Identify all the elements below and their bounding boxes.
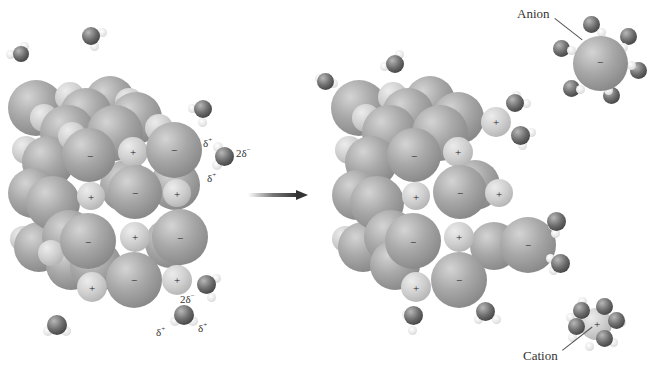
delta-plus-label: δ+ <box>203 136 212 149</box>
two-delta-minus-label: 2δ− <box>180 292 195 305</box>
anion-sign: − <box>85 237 91 248</box>
cation-sign: + <box>132 232 138 243</box>
anion-sign: − <box>171 145 177 156</box>
cation-sign: + <box>456 232 462 243</box>
delta-plus-label: δ+ <box>156 325 165 338</box>
cation-sign: + <box>174 275 180 286</box>
anion-sign: − <box>457 188 463 199</box>
two-delta-minus-label: 2δ− <box>236 146 251 159</box>
cation-label: Cation <box>523 348 558 364</box>
cation-sign: + <box>88 192 94 203</box>
cation-sign: + <box>496 189 502 200</box>
cation-sign: + <box>130 147 136 158</box>
reaction-arrow-icon <box>248 190 308 200</box>
anion-sign: − <box>597 57 603 68</box>
cation-sign: + <box>455 147 461 158</box>
anion-leader-line <box>554 18 582 40</box>
cation-sign: + <box>413 192 419 203</box>
cation-sign: + <box>174 189 180 200</box>
dissolution-diagram: − + − + − + − + − + − + <box>0 0 660 367</box>
cation-sign: + <box>493 117 499 128</box>
anion-sign: − <box>87 151 93 162</box>
anion-sign: − <box>411 151 417 162</box>
cation-sign: + <box>89 283 95 294</box>
anion-sign: − <box>131 275 137 286</box>
anion-sign: − <box>177 233 183 244</box>
cation-sign: + <box>594 319 600 330</box>
anion-sign: − <box>456 275 462 286</box>
anion-sign: − <box>410 237 416 248</box>
delta-plus-label: δ+ <box>207 171 216 184</box>
delta-plus-label: δ+ <box>198 321 207 334</box>
cation-sign: + <box>413 283 419 294</box>
anion-label: Anion <box>517 6 550 22</box>
anion-sign: − <box>525 240 531 251</box>
anion-sign: − <box>132 188 138 199</box>
